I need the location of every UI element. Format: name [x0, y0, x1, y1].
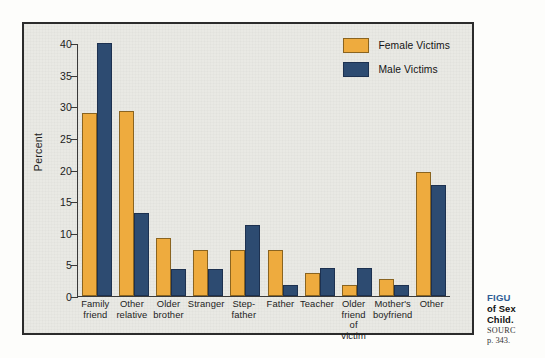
x-axis-label: Father	[262, 299, 299, 341]
legend-label-male: Male Victims	[378, 64, 437, 75]
y-axis-tick	[71, 171, 78, 172]
bar-female	[193, 250, 208, 296]
bar-group	[301, 44, 338, 296]
caption-line-1: of Sex	[487, 303, 545, 314]
bar-male	[171, 269, 186, 296]
y-axis-tick-label: 35	[60, 70, 72, 82]
male-swatch-icon	[343, 62, 369, 77]
x-axis-label: Other	[413, 299, 450, 341]
x-axis-label: Stranger	[187, 299, 226, 341]
bar-group	[190, 44, 227, 296]
y-axis-tick	[71, 297, 78, 298]
bar-female	[82, 113, 97, 296]
bar-female	[416, 172, 431, 296]
bar-male	[431, 185, 446, 296]
bar-group	[152, 44, 189, 296]
bar-group	[227, 44, 264, 296]
y-axis-tick	[71, 107, 78, 108]
y-axis-tick-label: 5	[66, 259, 72, 271]
y-axis-tick-label: 20	[60, 165, 72, 177]
y-axis-tick	[71, 265, 78, 266]
x-axis-label: Familyfriend	[77, 299, 114, 341]
figure-root: Percent Female Victims Male Victims 0510…	[0, 0, 545, 358]
y-axis-title: Percent	[32, 133, 44, 171]
bar-group	[115, 44, 152, 296]
chart-legend: Female Victims Male Victims	[343, 38, 450, 86]
bar-male	[97, 43, 112, 296]
figure-caption: FIGU of Sex Child. SOURC p. 343.	[487, 292, 545, 347]
bar-female	[268, 250, 283, 296]
bar-male	[208, 269, 223, 296]
x-axis-label: Teacher	[299, 299, 336, 341]
caption-figure-label: FIGU	[487, 292, 545, 303]
chart-panel: Percent Female Victims Male Victims 0510…	[22, 22, 474, 335]
x-axis-label: Olderbrother	[150, 299, 187, 341]
x-axis-label: Olderfriendof victim	[335, 299, 372, 341]
bar-male	[283, 285, 298, 296]
caption-line-2: Child.	[487, 314, 545, 325]
x-axis-label: Otherrelative	[114, 299, 151, 341]
legend-item-female: Female Victims	[343, 38, 450, 53]
y-axis-tick	[71, 139, 78, 140]
bar-female	[230, 250, 245, 296]
y-axis-tick	[71, 76, 78, 77]
bar-group	[264, 44, 301, 296]
y-axis-tick-label: 15	[60, 196, 72, 208]
x-axis-label: Mother'sboyfriend	[372, 299, 413, 341]
x-axis-labels: FamilyfriendOtherrelativeOlderbrotherStr…	[77, 299, 450, 341]
bar-male	[357, 268, 372, 296]
bar-male	[245, 225, 260, 296]
bar-male	[320, 268, 335, 296]
bar-female	[342, 285, 357, 296]
y-axis-tick-label: 30	[60, 101, 72, 113]
bar-male	[394, 285, 409, 296]
bar-group	[78, 44, 115, 296]
female-swatch-icon	[343, 38, 369, 53]
bar-male	[134, 213, 149, 296]
bar-female	[379, 279, 394, 296]
caption-source-label: SOURC	[487, 325, 545, 336]
caption-page: p. 343.	[487, 336, 545, 347]
y-axis-tick-label: 25	[60, 133, 72, 145]
bar-female	[156, 238, 171, 296]
x-axis-label: Step-father	[226, 299, 263, 341]
bar-female	[119, 111, 134, 296]
y-axis-tick	[71, 234, 78, 235]
y-axis-tick-label: 40	[60, 38, 72, 50]
legend-label-female: Female Victims	[378, 40, 450, 51]
y-axis-tick	[71, 202, 78, 203]
bar-female	[305, 273, 320, 296]
y-axis-tick-label: 10	[60, 228, 72, 240]
y-axis-tick-label: 0	[66, 291, 72, 303]
y-axis-tick	[71, 44, 78, 45]
legend-item-male: Male Victims	[343, 62, 450, 77]
